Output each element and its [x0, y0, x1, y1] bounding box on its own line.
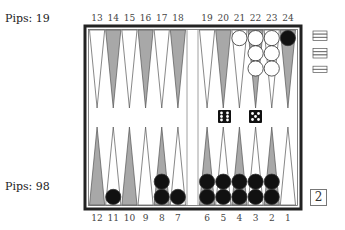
die-pip — [251, 112, 254, 115]
die-pip — [257, 112, 260, 115]
borne-off-checker — [313, 52, 327, 55]
point-label-21: 21 — [234, 13, 245, 23]
point-label-15: 15 — [124, 13, 136, 23]
die-pip — [226, 119, 229, 122]
point-label-9: 9 — [143, 213, 149, 223]
white-checker[interactable] — [264, 61, 279, 76]
doubling-cube[interactable]: 2 — [310, 189, 327, 206]
point-label-7: 7 — [175, 213, 181, 223]
point-label-4: 4 — [237, 213, 243, 223]
black-checker[interactable] — [199, 189, 214, 204]
white-checker[interactable] — [248, 61, 263, 76]
black-checker[interactable] — [232, 189, 247, 204]
black-checker[interactable] — [248, 174, 263, 189]
point-label-2: 2 — [269, 213, 275, 223]
point-label-22: 22 — [250, 13, 261, 23]
white-checker[interactable] — [248, 46, 263, 61]
black-checker[interactable] — [264, 174, 279, 189]
white-checker[interactable] — [248, 30, 263, 45]
borne-off-checker — [313, 69, 327, 72]
point-label-6: 6 — [204, 213, 210, 223]
point-label-3: 3 — [253, 213, 259, 223]
point-label-11: 11 — [108, 213, 119, 223]
die-1 — [218, 110, 231, 123]
borne-off-checker — [313, 31, 327, 34]
point-label-13: 13 — [91, 13, 103, 23]
backgammon-board[interactable]: 131415161718192021222324121110987654321 — [0, 0, 345, 230]
white-checker[interactable] — [264, 30, 279, 45]
point-label-1: 1 — [285, 213, 291, 223]
white-checker[interactable] — [232, 30, 247, 45]
borne-off-checker — [313, 34, 327, 37]
borne-off-checker — [313, 37, 327, 40]
die-pip — [257, 118, 260, 121]
die-pip — [226, 112, 229, 115]
point-label-23: 23 — [266, 13, 278, 23]
white-checker[interactable] — [264, 46, 279, 61]
borne-off-checker — [313, 49, 327, 52]
die-pip — [220, 115, 223, 118]
die-pip — [254, 115, 257, 118]
point-label-12: 12 — [91, 213, 102, 223]
black-checker[interactable] — [199, 174, 214, 189]
black-checker[interactable] — [280, 30, 295, 45]
black-checker[interactable] — [264, 189, 279, 204]
point-label-20: 20 — [218, 13, 230, 23]
point-label-17: 17 — [156, 13, 168, 23]
borne-off-checker — [313, 55, 327, 58]
die-pip — [251, 118, 254, 121]
black-checker[interactable] — [216, 174, 231, 189]
point-label-14: 14 — [108, 13, 120, 23]
point-label-5: 5 — [220, 213, 226, 223]
black-checker[interactable] — [170, 189, 185, 204]
black-checker[interactable] — [106, 189, 121, 204]
die-pip — [220, 112, 223, 115]
die-pip — [220, 119, 223, 122]
black-checker[interactable] — [154, 189, 169, 204]
point-label-16: 16 — [140, 13, 152, 23]
point-label-19: 19 — [201, 13, 213, 23]
black-checker[interactable] — [232, 174, 247, 189]
point-label-18: 18 — [172, 13, 184, 23]
point-label-10: 10 — [124, 213, 136, 223]
black-checker[interactable] — [248, 189, 263, 204]
black-checker[interactable] — [216, 189, 231, 204]
die-pip — [226, 115, 229, 118]
point-label-24: 24 — [282, 13, 294, 23]
borne-off-checker — [313, 66, 327, 69]
black-checker[interactable] — [154, 174, 169, 189]
point-label-8: 8 — [159, 213, 165, 223]
